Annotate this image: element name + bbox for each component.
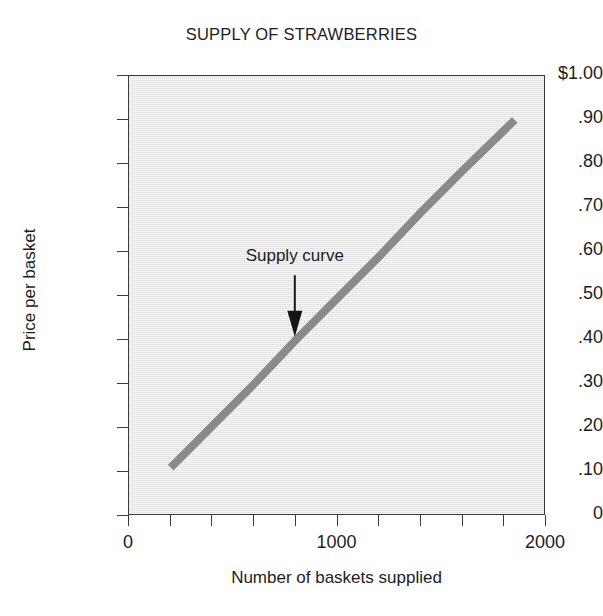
supply-curve-line (129, 76, 545, 515)
y-tick-mark (117, 515, 128, 516)
y-tick-mark (117, 207, 128, 208)
x-tick-label: 1000 (316, 532, 356, 553)
x-tick-mark (295, 515, 296, 526)
x-tick-mark (170, 515, 171, 526)
y-tick-mark (117, 119, 128, 120)
y-tick-mark (117, 295, 128, 296)
y-tick-mark (117, 163, 128, 164)
x-tick-label: 2000 (525, 532, 565, 553)
y-axis-title: Price per basket (20, 190, 40, 390)
x-tick-mark (128, 515, 129, 526)
x-tick-mark (503, 515, 504, 526)
supply-curve-path (171, 120, 515, 468)
y-tick-mark (117, 75, 128, 76)
x-tick-label: 0 (123, 532, 133, 553)
y-tick-mark (117, 427, 128, 428)
chart-title: SUPPLY OF STRAWBERRIES (0, 25, 603, 44)
x-axis-title: Number of baskets supplied (128, 568, 545, 588)
supply-chart: SUPPLY OF STRAWBERRIES $1.00.90.80.70.60… (0, 0, 603, 616)
y-tick-mark (117, 471, 128, 472)
x-tick-mark (378, 515, 379, 526)
supply-curve-annotation-label: Supply curve (246, 246, 344, 266)
x-tick-mark (462, 515, 463, 526)
x-tick-mark (253, 515, 254, 526)
x-tick-mark (420, 515, 421, 526)
plot-area (128, 75, 545, 515)
x-tick-mark (211, 515, 212, 526)
y-tick-mark (117, 339, 128, 340)
x-tick-mark (545, 515, 546, 526)
y-tick-mark (117, 383, 128, 384)
y-tick-mark (117, 251, 128, 252)
x-tick-mark (337, 515, 338, 526)
